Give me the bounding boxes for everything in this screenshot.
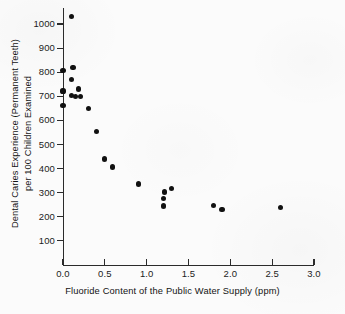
scatter-point	[110, 164, 115, 169]
scatter-point	[161, 203, 166, 208]
scatter-point	[60, 68, 65, 73]
scatter-point	[162, 189, 167, 194]
y-tick-mark	[57, 192, 63, 193]
y-tick-mark	[57, 96, 63, 97]
scatter-point	[161, 196, 166, 201]
scatter-point	[78, 94, 83, 99]
scatter-point	[60, 88, 65, 93]
y-axis-title-line-2: per 100 Children Examined	[21, 9, 34, 259]
y-tick-mark	[57, 216, 63, 217]
x-tick-mark	[272, 259, 273, 265]
y-axis-title-line-1: Dental Caries Experience (Permanent Teet…	[9, 9, 22, 259]
x-tick-label: 2.0	[210, 268, 250, 279]
y-tick-mark	[57, 144, 63, 145]
x-tick-mark	[313, 259, 314, 265]
scatter-point	[169, 186, 174, 191]
scatter-point	[219, 207, 224, 212]
scatter-point	[86, 106, 91, 111]
scatter-point	[278, 205, 283, 210]
x-tick-mark	[146, 259, 147, 265]
scatter-point	[76, 86, 81, 91]
scatter-point	[94, 129, 99, 134]
scatter-point	[102, 156, 107, 161]
scatter-plot-area: 1002003004005006007008009001000 0.00.51.…	[0, 0, 345, 314]
x-axis-title: Fluoride Content of the Public Water Sup…	[0, 286, 345, 296]
y-tick-mark	[57, 23, 63, 24]
x-tick-label: 1.5	[169, 268, 209, 279]
x-tick-label: 1.0	[127, 268, 167, 279]
x-tick-label: 3.0	[294, 268, 334, 279]
x-tick-mark	[62, 259, 63, 265]
x-tick-label: 0.5	[85, 268, 125, 279]
y-axis-title: Dental Caries Experience (Permanent Teet…	[9, 9, 34, 259]
scatter-point	[211, 203, 216, 208]
scatter-point	[69, 77, 74, 82]
figure-background: 1002003004005006007008009001000 0.00.51.…	[0, 0, 345, 314]
y-tick-mark	[57, 48, 63, 49]
scatter-point	[60, 103, 65, 108]
x-tick-label: 2.5	[252, 268, 292, 279]
x-tick-mark	[230, 259, 231, 265]
y-tick-mark	[57, 168, 63, 169]
scatter-point	[136, 181, 141, 186]
x-tick-mark	[188, 259, 189, 265]
scatter-point	[69, 14, 74, 19]
x-tick-mark	[104, 259, 105, 265]
y-tick-mark	[57, 240, 63, 241]
scatter-point	[70, 65, 75, 70]
y-tick-mark	[57, 120, 63, 121]
x-tick-label: 0.0	[43, 268, 83, 279]
y-axis-line	[63, 8, 64, 266]
